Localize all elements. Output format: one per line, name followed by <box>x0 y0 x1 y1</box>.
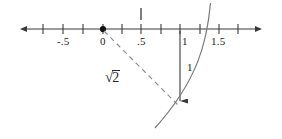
vertical-leg-label: 1 <box>187 62 193 73</box>
axis-label-half: .5 <box>137 36 146 47</box>
figure-canvas <box>0 0 282 139</box>
math-figure: -.5 0 .5 1 1.5 1 √2 <box>0 0 282 139</box>
radicand-value: 2 <box>112 70 120 86</box>
axis-label-neg-half: -.5 <box>57 36 70 47</box>
compass-arc-path <box>155 3 211 128</box>
axis-label-one-and-half: 1.5 <box>211 36 225 47</box>
axis-label-zero: 0 <box>100 36 106 47</box>
origin-point-dot <box>100 26 106 32</box>
hypotenuse-label: √2 <box>105 70 120 86</box>
axis-label-one: 1 <box>182 36 188 47</box>
